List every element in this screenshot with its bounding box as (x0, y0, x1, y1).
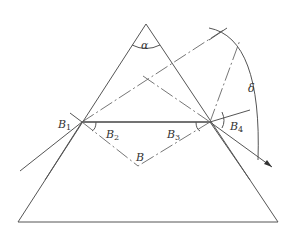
arrow-head-icon (264, 160, 272, 167)
angle-b4-arc (222, 112, 224, 128)
angle-b3-arc (196, 122, 200, 131)
b4-label: B4 (229, 120, 243, 134)
prism-outline (18, 24, 278, 222)
b2-label: B2 (105, 128, 119, 142)
emergent-extension (210, 40, 240, 122)
b3-label: B3 (166, 128, 180, 142)
normal-left-solid (70, 113, 82, 122)
incident-ray (20, 122, 82, 171)
incident-extension (82, 29, 225, 122)
b1-label: B1 (57, 118, 71, 132)
alpha-label: α (141, 39, 149, 52)
delta-label: δ (248, 82, 255, 95)
prism-diagram: α δ B1 B2 B3 B4 B (0, 0, 292, 237)
angle-b2-arc (92, 122, 96, 131)
b-label: B (135, 151, 144, 164)
bisector-dash (143, 76, 210, 122)
